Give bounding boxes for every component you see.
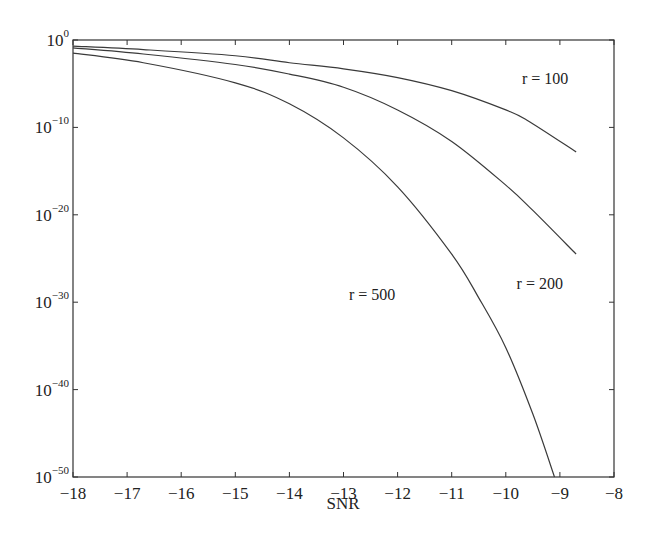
x-axis-label: SNR — [326, 494, 360, 513]
plot-area — [73, 40, 614, 477]
y-tick-label: 10−10 — [35, 114, 70, 137]
series-label: r = 100 — [522, 70, 568, 87]
y-tick-label: 10−40 — [35, 377, 70, 400]
series-labels: r = 100r = 200r = 500 — [349, 70, 568, 304]
series-label: r = 200 — [517, 275, 563, 292]
y-tick-label: 10−20 — [35, 202, 70, 225]
x-tick-label: −12 — [384, 484, 411, 503]
chart: −18−17−16−15−14−13−12−11−10−9−8 10010−10… — [0, 0, 655, 538]
x-tick-label: −14 — [276, 484, 303, 503]
x-tick-label: −11 — [439, 484, 465, 503]
x-axis: −18−17−16−15−14−13−12−11−10−9−8 — [60, 40, 623, 503]
x-tick-label: −16 — [168, 484, 195, 503]
series-group — [73, 46, 576, 477]
y-tick-label: 100 — [47, 27, 70, 50]
series-line-r200 — [73, 48, 576, 254]
y-axis: 10010−1010−2010−3010−4010−50 — [35, 27, 614, 487]
x-tick-label: −18 — [60, 484, 87, 503]
x-tick-label: −9 — [551, 484, 569, 503]
series-line-r100 — [73, 46, 576, 152]
x-tick-label: −15 — [222, 484, 249, 503]
series-label: r = 500 — [349, 286, 395, 303]
x-tick-label: −10 — [493, 484, 520, 503]
y-tick-label: 10−30 — [35, 289, 70, 312]
x-tick-label: −17 — [114, 484, 141, 503]
series-line-r500 — [73, 53, 554, 477]
plot-frame — [73, 40, 614, 477]
x-tick-label: −8 — [605, 484, 623, 503]
